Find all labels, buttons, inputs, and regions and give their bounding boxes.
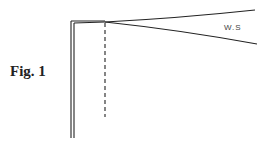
figure-label: Fig. 1 (10, 63, 46, 80)
upper-diverging-line (105, 10, 255, 22)
ws-annotation: W.S (224, 23, 242, 32)
inner-top-line (74, 22, 105, 23)
